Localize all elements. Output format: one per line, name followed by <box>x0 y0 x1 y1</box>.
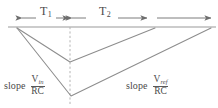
slope-vin-rc-annotation: slope Vin RC <box>4 75 45 97</box>
large-input-ramp <box>17 28 211 96</box>
fraction-denominator-rc: RC <box>31 87 44 97</box>
fraction-vref-rc: Vref RC <box>153 75 169 97</box>
numerator-subscript-ref: ref <box>160 78 167 85</box>
fraction-vin-rc: Vin RC <box>31 75 45 97</box>
slope-label-right: slope <box>126 80 148 91</box>
slope-label-left: slope <box>4 80 26 91</box>
dual-slope-integrator-diagram: T1 T2 slope Vin RC slope Vref RC <box>0 0 218 108</box>
interval-label-t1: T1 <box>40 5 52 19</box>
interval-label-t2: T2 <box>99 5 111 19</box>
fraction-numerator-vref: Vref <box>153 75 169 87</box>
interval-label-t2-subscript: 2 <box>106 10 111 19</box>
slope-vref-rc-annotation: slope Vref RC <box>126 75 168 97</box>
small-input-ramp <box>17 28 155 62</box>
fraction-denominator-rc-right: RC <box>154 87 167 97</box>
numerator-subscript-in: in <box>38 78 43 85</box>
interval-label-t1-subscript: 1 <box>47 10 52 19</box>
fraction-numerator-vin: Vin <box>31 75 45 87</box>
